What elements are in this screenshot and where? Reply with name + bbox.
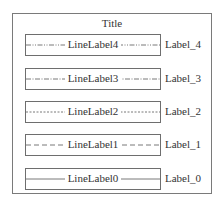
legend-row-3: LineLabel3 Label_3	[25, 68, 161, 90]
side-label: Label_4	[165, 37, 201, 51]
line-label: LineLabel0	[65, 172, 122, 184]
line-label: LineLabel4	[65, 38, 122, 50]
line-label: LineLabel2	[65, 105, 122, 117]
legend-row-4: LineLabel4 Label_4	[25, 34, 161, 56]
side-label: Label_1	[165, 137, 201, 151]
diagram-title: Title	[0, 16, 224, 30]
legend-row-2: LineLabel2 Label_2	[25, 101, 161, 123]
side-label: Label_3	[165, 71, 201, 85]
line-label: LineLabel3	[65, 72, 122, 84]
line-label: LineLabel1	[65, 138, 122, 150]
side-label: Label_2	[165, 104, 201, 118]
side-label: Label_0	[165, 171, 201, 185]
legend-row-1: LineLabel1 Label_1	[25, 134, 161, 156]
legend-row-0: LineLabel0 Label_0	[25, 168, 161, 190]
